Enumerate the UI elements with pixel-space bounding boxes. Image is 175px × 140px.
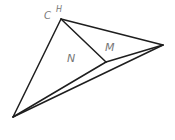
label-n: N — [67, 52, 75, 65]
geometry-diagram: C H N M — [0, 0, 175, 140]
label-c: C — [44, 10, 51, 21]
label-m: M — [105, 41, 115, 54]
label-h: H — [56, 5, 62, 14]
edge-bottom-right — [13, 45, 163, 117]
